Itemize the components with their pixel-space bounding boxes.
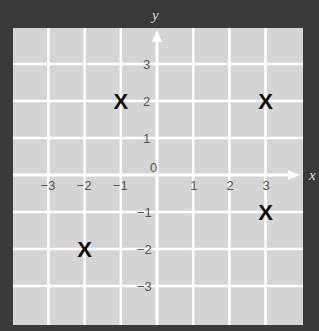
x-tick-label: 2 [226, 178, 233, 193]
coordinate-plot: −3−2−10123321−1−2−3 XXXX x y [0, 0, 319, 331]
x-tick-label: 1 [190, 178, 197, 193]
y-tick-label: −1 [137, 205, 152, 220]
x-marker-icon: X [258, 89, 273, 114]
x-tick-label: −2 [77, 178, 92, 193]
x-marker-icon: X [77, 237, 92, 262]
y-tick-label: 2 [143, 94, 150, 109]
y-axis-label: y [150, 7, 159, 23]
y-tick-label: −3 [137, 279, 152, 294]
origin-label: 0 [150, 160, 157, 175]
x-tick-label: −3 [40, 178, 55, 193]
x-tick-label: 3 [263, 178, 270, 193]
x-tick-label: −1 [113, 178, 128, 193]
x-axis-label: x [308, 167, 316, 183]
x-marker-icon: X [113, 89, 128, 114]
y-tick-label: 3 [143, 57, 150, 72]
y-tick-label: −2 [137, 242, 152, 257]
y-tick-label: 1 [143, 131, 150, 146]
x-marker-icon: X [258, 200, 273, 225]
